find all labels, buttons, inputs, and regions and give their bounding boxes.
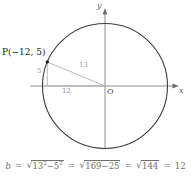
equation-line: b = √ 132−52 = √ 169−25 = √ 144 = 12 — [0, 160, 191, 171]
radical-3: √ 144 — [136, 160, 159, 171]
diagram-canvas — [0, 0, 191, 180]
geometry-figure: P(−12, 5) x y O 12 5 13 b = √ 132−52 = √… — [0, 0, 191, 180]
y-axis-label: y — [97, 2, 102, 10]
origin-label: O — [107, 88, 114, 96]
radicand-2: 169−25 — [84, 160, 120, 171]
equals-sign-3: = — [123, 161, 133, 171]
radical-2: √ 169−25 — [79, 160, 120, 171]
equals-sign-1: = — [14, 161, 24, 171]
radical-sign-icon: √ — [136, 160, 142, 170]
hypotenuse-label: 13 — [79, 62, 88, 69]
radicand-1-exp-2: 2 — [59, 160, 63, 166]
radicand-1-base-1: 13 — [32, 161, 43, 171]
hypotenuse-line — [47, 62, 105, 86]
vertical-leg-label: 5 — [37, 68, 41, 75]
radicand-1: 132−52 — [31, 160, 63, 171]
point-p-marker — [46, 60, 49, 63]
radicand-1-minus: − — [47, 161, 54, 171]
equation-lhs: b — [5, 161, 10, 171]
x-axis-label: x — [179, 87, 184, 95]
equals-sign-4: = — [162, 161, 172, 171]
point-p-label: P(−12, 5) — [2, 48, 46, 57]
equation-result: 12 — [175, 161, 186, 171]
radical-1: √ 132−52 — [26, 160, 63, 171]
radicand-3: 144 — [141, 160, 159, 171]
equals-sign-2: = — [66, 161, 76, 171]
horizontal-leg-label: 12 — [62, 88, 71, 95]
radical-sign-icon: √ — [26, 160, 32, 170]
radical-sign-icon: √ — [79, 160, 85, 170]
y-axis — [103, 8, 108, 148]
